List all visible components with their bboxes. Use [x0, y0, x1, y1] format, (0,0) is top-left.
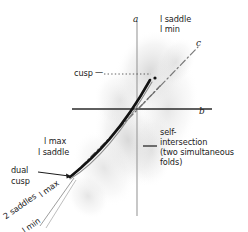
a-axis-label: a — [133, 14, 138, 24]
dual-cusp-line2: cusp — [11, 177, 30, 186]
self-intersection-line2: intersection — [160, 138, 207, 147]
dual-cusp-leader-line — [38, 172, 69, 176]
left-mid-annotation-line2: l saddle — [38, 148, 69, 157]
cusp-leader-dash: — — [95, 68, 103, 77]
surface-shading — [59, 18, 207, 226]
dual-cusp-line1: dual — [11, 166, 28, 175]
left-mid-annotation-line1: l max — [44, 137, 66, 146]
c-axis-label: c — [196, 38, 201, 48]
self-intersection-line3: (two simultaneous — [160, 148, 234, 157]
cusp-label: cusp — [74, 69, 93, 78]
top-right-annotation-line2: l min — [160, 25, 180, 34]
bifurcation-diagram: a b c l saddle l min cusp — self- inters… — [0, 0, 248, 232]
self-intersection-line1: self- — [160, 128, 176, 137]
b-axis-label: b — [199, 106, 205, 116]
top-right-annotation-line1: l saddle — [160, 15, 191, 24]
self-intersection-line4: folds) — [160, 158, 182, 167]
cusp-point-marker — [153, 76, 156, 79]
